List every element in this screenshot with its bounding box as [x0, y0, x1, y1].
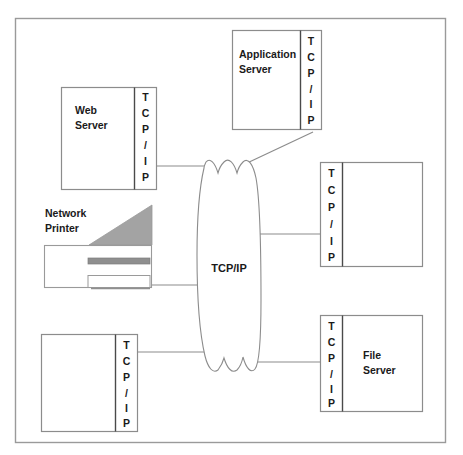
right-middle-server-stack-letter-4: I: [330, 235, 333, 247]
node-web-server[interactable]: Web Server T C P / I P: [62, 88, 157, 190]
network-diagram: TCP/IP Web Server T C P / I P Applicatio…: [0, 0, 463, 455]
file-server-stack-letter-5: P: [328, 397, 335, 409]
application-server-label-line-1: Application: [239, 48, 296, 60]
application-server-stack-letter-2: P: [307, 67, 314, 79]
application-server-stack-letter-4: I: [310, 98, 313, 110]
web-server-stack-letter-5: P: [142, 171, 149, 183]
application-server-label-line-2: Server: [239, 63, 272, 75]
printer-output-bar: [88, 258, 150, 264]
printer-paper-tray: [88, 276, 150, 288]
node-application-server[interactable]: Application Server T C P / I P: [233, 31, 322, 130]
right-middle-server-box: [321, 163, 423, 267]
cloud-label: TCP/IP: [211, 262, 246, 274]
web-server-stack-letter-3: /: [144, 139, 147, 151]
application-server-stack-letter-0: T: [308, 35, 315, 47]
file-server-stack-letter-2: P: [328, 352, 335, 364]
web-server-stack-letter-1: C: [142, 107, 150, 119]
tcpip-cloud[interactable]: TCP/IP: [197, 160, 261, 371]
right-middle-server-stack-letter-1: C: [328, 184, 336, 196]
web-server-stack-letter-2: P: [142, 123, 149, 135]
file-server-label-line-2: Server: [363, 364, 396, 376]
application-server-stack-letter-5: P: [307, 114, 314, 126]
node-right-middle-server[interactable]: T C P / I P: [321, 163, 423, 267]
node-bottom-left-server[interactable]: T C P / I P: [42, 335, 138, 432]
bottom-left-server-stack-letter-2: P: [123, 371, 130, 383]
web-server-label-line-1: Web: [75, 104, 97, 116]
network-printer-label-line-1: Network: [45, 207, 87, 219]
web-server-stack-letter-0: T: [142, 91, 149, 103]
file-server-stack-letter-3: /: [330, 368, 333, 380]
bottom-left-server-stack-letter-0: T: [123, 339, 130, 351]
network-printer-label-line-2: Printer: [45, 222, 79, 234]
bottom-left-server-stack-letter-5: P: [123, 417, 130, 429]
file-server-stack-letter-4: I: [330, 383, 333, 395]
web-server-label-line-2: Server: [75, 119, 108, 131]
right-middle-server-stack-letter-0: T: [328, 167, 335, 179]
file-server-label-line-1: File: [363, 349, 381, 361]
right-middle-server-stack-letter-3: /: [330, 218, 333, 230]
file-server-stack-letter-1: C: [328, 336, 336, 348]
network-diagram-canvas: TCP/IP Web Server T C P / I P Applicatio…: [0, 0, 463, 455]
right-middle-server-stack-letter-5: P: [328, 251, 335, 263]
bottom-left-server-stack-letter-4: I: [125, 402, 128, 414]
right-middle-server-stack-letter-2: P: [328, 201, 335, 213]
application-server-stack-letter-3: /: [310, 83, 313, 95]
node-file-server[interactable]: File Server T C P / I P: [321, 316, 423, 412]
bottom-left-server-stack-letter-3: /: [125, 387, 128, 399]
application-server-stack-letter-1: C: [307, 51, 315, 63]
bottom-left-server-stack-letter-1: C: [123, 355, 131, 367]
file-server-stack-letter-0: T: [328, 320, 335, 332]
web-server-stack-letter-4: I: [144, 155, 147, 167]
